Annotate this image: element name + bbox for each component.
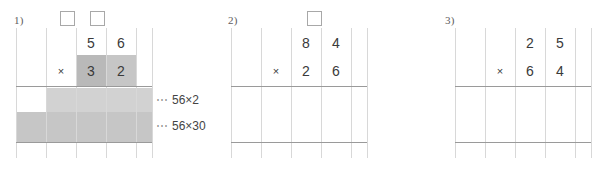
problem-2-multiplier-tens[interactable]: 2 — [291, 56, 321, 85]
problem-1-gridline-v2 — [46, 28, 47, 158]
problem-3-operator: × — [485, 56, 515, 85]
problem-1-partial-1-dots: ⋯ — [156, 93, 169, 107]
problem-3-label: 3) — [445, 14, 455, 26]
problem-3-multiplicand-ones[interactable]: 5 — [545, 30, 575, 55]
problem-2: 2) 8 4 × 2 6 — [224, 0, 414, 180]
problem-1-multiplicand-ones[interactable]: 6 — [106, 30, 136, 55]
problem-1-multiplicand-tens[interactable]: 5 — [76, 30, 106, 55]
problem-1-rule-top — [16, 86, 152, 87]
problem-1-rule-bottom — [16, 142, 152, 143]
problem-2-multiplier-ones[interactable]: 6 — [321, 56, 351, 85]
problem-3-gridline-v2 — [485, 28, 486, 158]
problem-1-multiplier-tens[interactable]: 3 — [76, 56, 106, 85]
problem-1-label: 1) — [14, 14, 24, 26]
problem-2-answer-box-1[interactable] — [307, 11, 322, 26]
problem-2-rule-top — [231, 86, 367, 87]
problem-3: 3) 2 5 × 6 4 — [441, 0, 601, 180]
problem-1-gridline-v5 — [136, 28, 137, 158]
problem-3-multiplier-tens[interactable]: 6 — [515, 56, 545, 85]
problem-2-rule-bottom — [231, 142, 367, 143]
problem-2-multiplicand-ones[interactable]: 4 — [321, 30, 351, 55]
problem-1-partial-2-text: 56×30 — [172, 119, 206, 133]
problem-1-partial-2-dots: ⋯ — [156, 119, 169, 133]
problem-2-multiplicand-tens[interactable]: 8 — [291, 30, 321, 55]
problem-1-gridline-v1 — [16, 28, 17, 158]
problem-1-answer-box-1[interactable] — [60, 11, 75, 26]
problem-2-gridline-v5 — [351, 28, 352, 158]
problem-1: 1) 5 6 × 3 2 ⋯56×2 — [0, 0, 220, 180]
problem-2-operator: × — [261, 56, 291, 85]
problem-3-rule-top — [455, 86, 591, 87]
problem-3-multiplicand-tens[interactable]: 2 — [515, 30, 545, 55]
problem-2-gridline-v2 — [261, 28, 262, 158]
problem-1-partial-1-text: 56×2 — [172, 93, 199, 107]
worksheet-canvas: 1) 5 6 × 3 2 ⋯56×2 — [0, 0, 601, 180]
problem-3-gridline-v6 — [591, 28, 592, 158]
problem-1-partial-2-annotation: ⋯56×30 — [156, 119, 206, 133]
problem-1-partial-1-annotation: ⋯56×2 — [156, 93, 199, 107]
problem-1-multiplier-ones[interactable]: 2 — [106, 56, 136, 85]
problem-3-multiplier-ones[interactable]: 4 — [545, 56, 575, 85]
problem-1-answer-box-2[interactable] — [90, 11, 105, 26]
problem-1-gridline-v6 — [152, 28, 153, 158]
problem-2-gridline-v6 — [367, 28, 368, 158]
problem-3-rule-bottom — [455, 142, 591, 143]
problem-2-gridline-v1 — [231, 28, 232, 158]
problem-2-label: 2) — [228, 14, 238, 26]
problem-3-gridline-v1 — [455, 28, 456, 158]
problem-3-gridline-v5 — [575, 28, 576, 158]
problem-1-operator: × — [46, 56, 76, 85]
